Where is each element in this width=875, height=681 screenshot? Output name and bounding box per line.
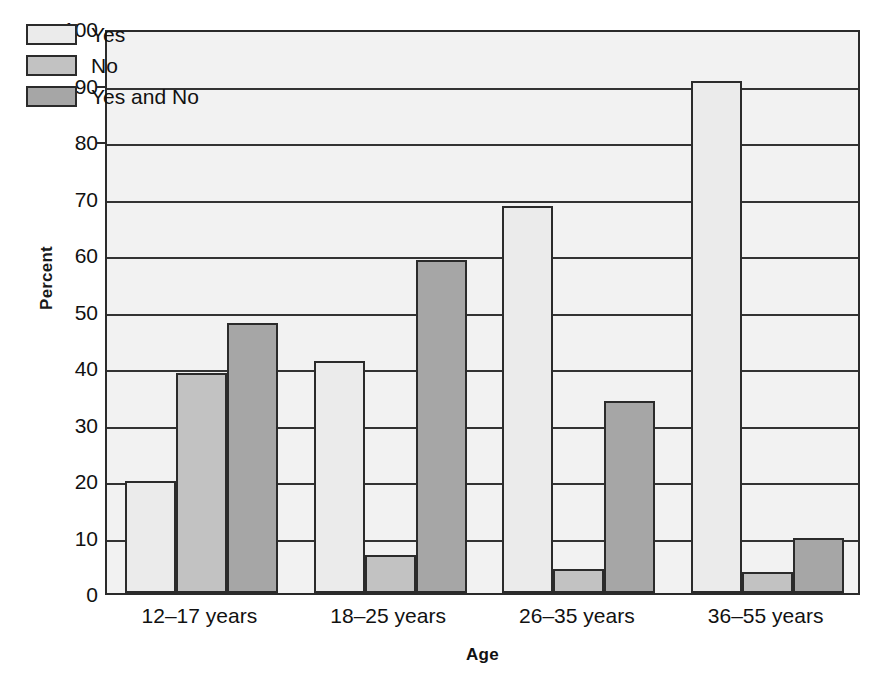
bar — [416, 260, 467, 593]
legend-item: No — [26, 50, 199, 81]
legend-label: No — [91, 55, 118, 76]
x-axis-tick-label: 18–25 years — [298, 604, 478, 628]
bar — [691, 81, 742, 593]
y-axis-tick-label: 0 — [52, 584, 98, 605]
legend-item: Yes and No — [26, 81, 199, 112]
y-axis-tick-label: 60 — [52, 245, 98, 266]
legend-swatch-icon — [26, 24, 77, 45]
bar — [604, 401, 655, 593]
bars-layer — [107, 32, 858, 593]
legend-swatch-icon — [26, 86, 77, 107]
plot-area — [105, 30, 860, 595]
bar — [125, 481, 176, 593]
x-axis-tick-label: 12–17 years — [109, 604, 289, 628]
y-axis-tick-label: 30 — [52, 415, 98, 436]
legend-swatch-icon — [26, 55, 77, 76]
bar — [176, 373, 227, 593]
bar — [502, 206, 553, 593]
bar — [314, 361, 365, 593]
bar — [365, 555, 416, 593]
x-axis-tick-label: 36–55 years — [676, 604, 856, 628]
bar — [793, 538, 844, 593]
legend-label: Yes — [91, 24, 125, 45]
x-axis-title: Age — [105, 645, 860, 665]
x-axis-tick-labels: 12–17 years18–25 years26–35 years36–55 y… — [105, 604, 860, 634]
legend: YesNoYes and No — [20, 15, 205, 116]
bar — [742, 572, 793, 593]
bar — [553, 569, 604, 593]
y-axis-tick-label: 70 — [52, 189, 98, 210]
legend-item: Yes — [26, 19, 199, 50]
y-axis-tick-label: 40 — [52, 358, 98, 379]
y-axis-tick-label: 80 — [52, 132, 98, 153]
y-axis-tick-label: 50 — [52, 302, 98, 323]
bar-chart: Percent 0102030405060708090100 YesNoYes … — [0, 0, 875, 681]
bar — [227, 323, 278, 593]
y-axis-tick-label: 20 — [52, 471, 98, 492]
legend-label: Yes and No — [91, 86, 199, 107]
x-axis-tick-label: 26–35 years — [487, 604, 667, 628]
y-axis-tick-label: 10 — [52, 528, 98, 549]
